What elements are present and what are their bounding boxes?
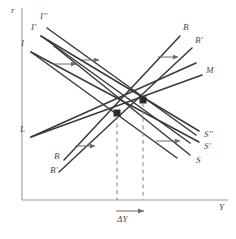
equilibrium-point-1 [114, 110, 121, 117]
curve-label-B-prime-lower: B' [50, 166, 58, 175]
curve-label-M: M [206, 66, 214, 75]
y-axis-label: r [11, 6, 15, 15]
curve-label-B-prime-upper: B' [195, 36, 203, 45]
curve-label-I-prime: I' [31, 23, 36, 32]
curve-label-B-upper: B [183, 23, 189, 32]
curve-label-B-lower: B [54, 152, 60, 161]
economics-diagram: r Y I'' I' I L M B B' B B' S'' S' S ΔY [0, 0, 236, 239]
curve-I-double-prime [47, 28, 196, 135]
curve-label-I: I [21, 39, 24, 48]
curve-M [31, 75, 202, 137]
x-axis-label: Y [219, 203, 224, 212]
curve-label-S-prime: S' [204, 142, 211, 151]
curve-label-L: L [20, 125, 25, 134]
curve-I-prime [41, 36, 190, 143]
curve-label-I-double-prime: I'' [40, 12, 47, 21]
delta-y-label: ΔY [117, 215, 128, 224]
curve-L [31, 63, 196, 137]
curve-label-S: S [196, 156, 201, 165]
equilibrium-point-2 [140, 97, 147, 104]
curve-label-S-double-prime: S'' [204, 130, 213, 139]
